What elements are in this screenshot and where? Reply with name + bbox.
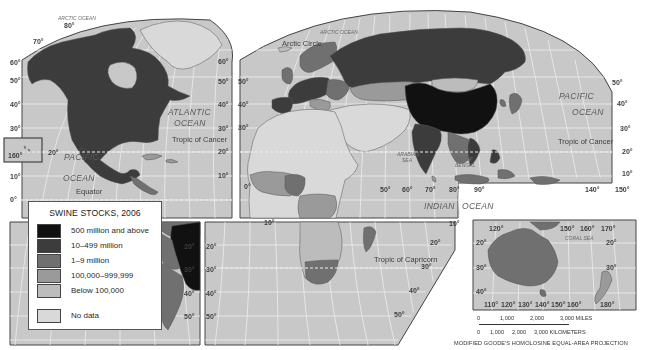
svg-text:150°: 150° <box>551 301 566 308</box>
svg-text:40°: 40° <box>476 288 487 295</box>
svg-text:20°: 20° <box>206 243 217 250</box>
svg-text:40°: 40° <box>10 101 21 108</box>
svg-text:20°: 20° <box>48 149 59 156</box>
legend-label: 100,000–999,999 <box>71 271 133 280</box>
svg-text:40°: 40° <box>184 290 195 297</box>
scale-mile-3000: 3,000 MILES <box>560 315 592 321</box>
svg-text:20°: 20° <box>184 243 195 250</box>
scale-mile-0: 0 <box>477 315 480 321</box>
svg-text:10°: 10° <box>264 219 275 226</box>
svg-text:Equator: Equator <box>76 187 103 196</box>
svg-text:10°: 10° <box>218 172 229 179</box>
legend-swatch <box>37 269 61 283</box>
svg-text:PACIFIC: PACIFIC <box>64 152 100 162</box>
legend: SWINE STOCKS, 2006 500 million and above… <box>28 201 162 330</box>
svg-text:0°: 0° <box>10 196 17 203</box>
svg-text:Tropic of Cancer: Tropic of Cancer <box>172 135 228 144</box>
svg-text:30°: 30° <box>476 264 487 271</box>
svg-text:30°: 30° <box>238 124 249 131</box>
svg-text:50°: 50° <box>238 78 249 85</box>
svg-text:30°: 30° <box>10 125 21 132</box>
scale-km-1000: 1,000 <box>490 329 504 335</box>
legend-swatch <box>37 254 61 268</box>
svg-text:10°: 10° <box>10 173 21 180</box>
svg-text:OCEAN: OCEAN <box>462 201 494 211</box>
svg-text:150°: 150° <box>560 225 575 232</box>
svg-text:ATLANTIC: ATLANTIC <box>167 107 211 117</box>
svg-text:SEA: SEA <box>402 157 413 163</box>
svg-text:50°: 50° <box>218 78 229 85</box>
svg-text:Arctic Circle: Arctic Circle <box>282 39 322 48</box>
svg-text:30°: 30° <box>218 125 229 132</box>
svg-text:90°: 90° <box>474 186 485 193</box>
svg-text:50°: 50° <box>184 313 195 320</box>
svg-text:40°: 40° <box>409 287 420 294</box>
svg-text:50°: 50° <box>612 79 623 86</box>
svg-text:50°: 50° <box>380 186 391 193</box>
scale-mile-2000: 2,000 <box>530 315 544 321</box>
svg-text:140°: 140° <box>585 186 600 193</box>
svg-text:40°: 40° <box>238 101 249 108</box>
legend-item-below-100k: Below 100,000 <box>37 283 153 298</box>
svg-text:OCEAN: OCEAN <box>572 107 604 117</box>
svg-text:40°: 40° <box>218 101 229 108</box>
legend-item-1-9m: 1–9 million <box>37 253 153 268</box>
svg-text:OCEAN: OCEAN <box>63 173 95 183</box>
svg-text:30°: 30° <box>620 125 631 132</box>
scale-km-0: 0 <box>477 329 480 335</box>
scale-mile-1000: 1,000 <box>500 315 514 321</box>
svg-text:70°: 70° <box>425 186 436 193</box>
legend-label: 10–499 million <box>71 241 123 250</box>
legend-label: Below 100,000 <box>71 286 124 295</box>
svg-text:30°: 30° <box>206 266 217 273</box>
legend-item-10-499m: 10–499 million <box>37 238 153 253</box>
svg-text:170°: 170° <box>601 225 616 232</box>
svg-text:40°: 40° <box>206 290 217 297</box>
legend-label: 1–9 million <box>71 256 109 265</box>
svg-text:BENGAL: BENGAL <box>455 162 476 168</box>
svg-text:110°: 110° <box>484 301 498 308</box>
svg-text:30°: 30° <box>184 266 195 273</box>
svg-text:160°: 160° <box>580 225 595 232</box>
legend-label: 500 million and above <box>71 226 149 235</box>
svg-text:20°: 20° <box>218 148 229 155</box>
svg-text:80°: 80° <box>449 186 460 193</box>
legend-swatch <box>37 239 61 253</box>
svg-text:10°: 10° <box>449 220 460 227</box>
svg-text:Tropic of Cancer: Tropic of Cancer <box>558 137 614 146</box>
svg-text:INDIAN: INDIAN <box>424 201 455 211</box>
svg-text:0°: 0° <box>244 183 251 190</box>
legend-item-500m: 500 million and above <box>37 223 153 238</box>
projection-caption: MODIFIED GOODE'S HOMOLOSINE EQUAL-AREA P… <box>454 340 628 346</box>
svg-text:70°: 70° <box>33 38 44 45</box>
svg-text:160°: 160° <box>567 301 582 308</box>
central-africa <box>298 194 337 218</box>
legend-swatch <box>37 224 61 238</box>
legend-swatch <box>37 309 61 323</box>
svg-text:60°: 60° <box>218 58 229 65</box>
svg-text:20°: 20° <box>430 239 441 246</box>
svg-text:50°: 50° <box>206 313 217 320</box>
svg-text:CORAL SEA: CORAL SEA <box>565 235 594 241</box>
legend-title: SWINE STOCKS, 2006 <box>37 208 153 218</box>
svg-text:180°: 180° <box>600 301 615 308</box>
svg-text:50°: 50° <box>394 311 405 318</box>
legend-item-100k-999k: 100,000–999,999 <box>37 268 153 283</box>
svg-text:ARCTIC OCEAN: ARCTIC OCEAN <box>319 29 358 35</box>
svg-text:50°: 50° <box>10 77 21 84</box>
svg-text:60°: 60° <box>402 186 413 193</box>
svg-text:10°: 10° <box>622 170 633 177</box>
svg-text:20°: 20° <box>606 239 617 246</box>
svg-text:ARCTIC OCEAN: ARCTIC OCEAN <box>57 15 96 21</box>
svg-text:30°: 30° <box>606 264 617 271</box>
svg-text:160°: 160° <box>8 152 23 159</box>
svg-text:40°: 40° <box>617 100 628 107</box>
svg-text:PACIFIC: PACIFIC <box>559 91 595 101</box>
svg-text:80°: 80° <box>64 22 75 29</box>
svg-text:120°: 120° <box>501 301 516 308</box>
legend-swatch <box>37 284 61 298</box>
legend-label: No data <box>71 311 99 320</box>
scale-km-3000: 3,000 KILOMETERS <box>534 329 586 335</box>
scale-km-2000: 2,000 <box>512 329 526 335</box>
scale-line <box>479 324 569 325</box>
